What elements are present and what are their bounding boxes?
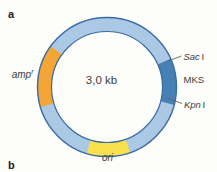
sac1-site-label: SacI — [184, 51, 205, 62]
plasmid-size-label: 3,0 kb — [86, 74, 117, 86]
panel-b-label: b — [8, 159, 15, 171]
amp-gene-label-text: amp — [12, 69, 32, 80]
sac1-gene-text: Sac — [184, 51, 201, 62]
mks-label: MKS — [184, 74, 205, 85]
amp-gene-label: ampr — [12, 68, 34, 80]
kpn1-numeral-text: I — [202, 99, 205, 110]
ring-inner-outline — [52, 32, 163, 143]
kpn1-site-label: KpnI — [184, 99, 205, 110]
mks-segment — [164, 62, 169, 104]
plasmid-map-figure: a 3,0 kb ampr SacI MKS KpnI ori b — [0, 0, 217, 172]
plasmid-backbone-ring — [45, 25, 170, 150]
ori-segment — [89, 146, 128, 150]
kpn1-gene-text: Kpn — [184, 99, 201, 110]
amp-resistance-segment — [44, 50, 56, 105]
panel-a-label: a — [8, 8, 15, 20]
amp-gene-superscript: r — [31, 68, 34, 75]
ori-label: ori — [102, 152, 114, 163]
sac1-numeral-text: I — [201, 51, 204, 62]
ring-outer-outline — [38, 18, 177, 157]
